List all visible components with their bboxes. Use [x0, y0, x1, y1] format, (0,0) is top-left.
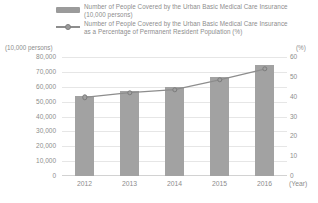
legend-line-marker-key [56, 20, 84, 33]
legend-bar-series-line2: (10,000 persons) [84, 11, 288, 19]
x-axis-unit-label: (Year) [289, 180, 307, 187]
x-axis-tick-label: 2016 [245, 180, 285, 187]
legend-line-series-text: Number of People Covered by the Urban Ba… [84, 20, 288, 36]
left-axis-tick-label: 20,000 [4, 142, 56, 149]
legend-bar-series-text: Number of People Covered by the Urban Ba… [84, 3, 288, 19]
right-axis-unit-label: (%) [296, 44, 306, 51]
left-axis-tick-label: 70,000 [4, 68, 56, 75]
left-axis-unit-label: (10,000 persons) [5, 44, 53, 51]
legend-line-series-line2: as a Percentage of Permanent Resident Po… [84, 28, 288, 36]
x-axis-tick-label: 2014 [155, 180, 195, 187]
chart-legend: Number of People Covered by the Urban Ba… [56, 3, 314, 37]
left-axis-tick-label: 80,000 [4, 53, 56, 60]
legend-bar-swatch-key [56, 3, 84, 16]
right-axis-tick-label: 0 [290, 172, 312, 179]
x-axis-tick-label: 2015 [200, 180, 240, 187]
left-axis-tick-label: 10,000 [4, 157, 56, 164]
bar-swatch-icon [56, 7, 80, 13]
left-axis-tick-label: 0 [4, 172, 56, 179]
chart-root: Number of People Covered by the Urban Ba… [0, 0, 318, 203]
right-axis-tick-label: 40 [290, 93, 312, 100]
left-axis-tick-label: 50,000 [4, 98, 56, 105]
right-axis-tick-label: 50 [290, 73, 312, 80]
legend-item-bar-series: Number of People Covered by the Urban Ba… [56, 3, 314, 19]
legend-item-line-series: Number of People Covered by the Urban Ba… [56, 20, 314, 36]
x-axis-tick-label: 2013 [110, 180, 150, 187]
circle-marker-icon [65, 24, 71, 30]
right-axis-tick-label: 10 [290, 152, 312, 159]
right-axis-tick-label: 30 [290, 113, 312, 120]
x-axis-tick-label: 2012 [65, 180, 105, 187]
right-axis-tick-label: 60 [290, 53, 312, 60]
line-series-path [62, 57, 287, 176]
left-axis-tick-label: 40,000 [4, 113, 56, 120]
left-axis-tick-label: 60,000 [4, 83, 56, 90]
right-axis-tick-label: 20 [290, 132, 312, 139]
legend-bar-series-line1: Number of People Covered by the Urban Ba… [84, 3, 288, 11]
plot-area [62, 57, 287, 176]
left-axis-tick-label: 30,000 [4, 127, 56, 134]
legend-line-series-line1: Number of People Covered by the Urban Ba… [84, 20, 288, 28]
